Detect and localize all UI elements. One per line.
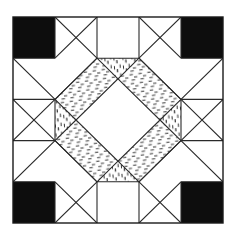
diagram-page: Quilt Block Pattern Symmetric five-by-fi… [0,0,237,236]
solid-square-bottom-right [181,182,223,223]
quilt-block-svg [0,0,237,236]
solid-square-bottom-left [13,182,55,223]
block-body [13,17,223,223]
quilt-block-figure [0,0,237,236]
solid-square-top-right [181,17,223,58]
solid-square-top-left [13,17,55,58]
